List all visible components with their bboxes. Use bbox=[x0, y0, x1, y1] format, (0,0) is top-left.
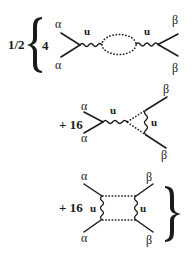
term-box: + 16 α α u u β β bbox=[59, 169, 153, 247]
leg-label-alpha-top: α bbox=[55, 17, 62, 31]
external-leg bbox=[61, 45, 80, 57]
leg-label-alpha-bottom: α bbox=[55, 58, 62, 72]
prefactor-label: 1/2 bbox=[8, 37, 25, 52]
right-brace-icon bbox=[165, 186, 181, 242]
external-leg bbox=[146, 97, 167, 110]
leg-label-beta-top: β bbox=[172, 13, 178, 27]
leg-label-beta-bottom: β bbox=[172, 61, 178, 75]
leg-label-alpha-top: α bbox=[81, 169, 88, 183]
term-triangle: + 16 α α u u β β bbox=[59, 82, 169, 162]
external-leg bbox=[84, 122, 103, 133]
wavy-propagator bbox=[80, 44, 102, 47]
feynman-diagram-canvas: 1/2 4 α α u u β β + 16 α α bbox=[0, 0, 196, 260]
external-leg bbox=[84, 112, 103, 122]
external-leg bbox=[84, 184, 102, 196]
external-leg bbox=[84, 220, 101, 232]
dotted-line bbox=[127, 122, 146, 135]
external-leg bbox=[158, 45, 178, 57]
propagator-label: u bbox=[144, 25, 150, 37]
external-leg bbox=[158, 34, 178, 45]
term-bubble: 4 α α u u β β bbox=[42, 13, 178, 75]
leg-label-beta-top: β bbox=[146, 170, 152, 184]
propagator-label: u bbox=[84, 25, 90, 37]
leg-label-beta-top: β bbox=[163, 82, 169, 96]
dotted-line bbox=[127, 110, 146, 122]
wavy-propagator bbox=[103, 121, 127, 124]
left-brace-icon bbox=[27, 17, 42, 73]
external-leg bbox=[146, 135, 166, 148]
external-leg bbox=[61, 33, 80, 45]
propagator-label: u bbox=[90, 202, 96, 214]
leg-label-alpha-bottom: α bbox=[81, 231, 88, 245]
coefficient-label: + 16 bbox=[59, 200, 83, 215]
dotted-loop bbox=[102, 35, 136, 55]
external-leg bbox=[136, 184, 153, 196]
leg-label-beta-bottom: β bbox=[161, 148, 167, 162]
coefficient-label: + 16 bbox=[59, 117, 83, 132]
wavy-propagator bbox=[136, 43, 158, 46]
propagator-label: u bbox=[151, 116, 157, 128]
propagator-label: u bbox=[140, 202, 146, 214]
wavy-propagator bbox=[101, 196, 104, 220]
propagator-label: u bbox=[110, 104, 116, 116]
wavy-propagator bbox=[145, 110, 148, 135]
leg-label-alpha-top: α bbox=[81, 99, 88, 113]
coefficient-label: 4 bbox=[42, 38, 49, 53]
diagram-svg: 1/2 4 α α u u β β + 16 α α bbox=[0, 0, 196, 260]
leg-label-beta-bottom: β bbox=[146, 233, 152, 247]
wavy-propagator bbox=[135, 196, 138, 220]
external-leg bbox=[136, 220, 153, 232]
